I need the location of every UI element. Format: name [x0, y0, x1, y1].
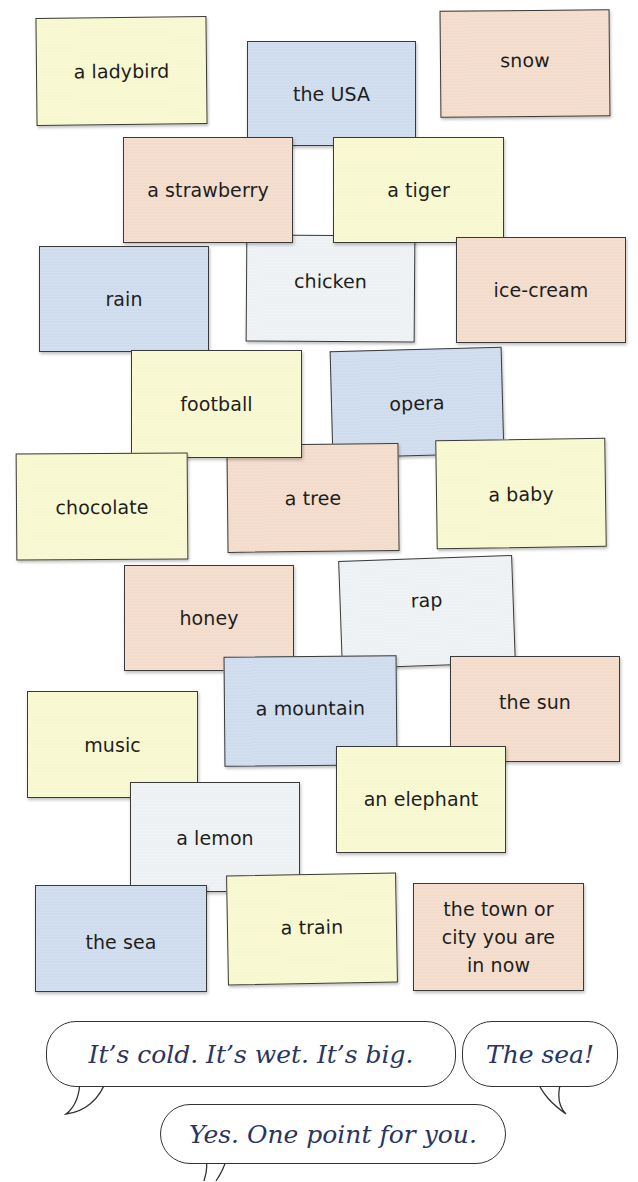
card-label: football	[174, 390, 258, 418]
card-rap: rap	[338, 555, 516, 669]
card-label: a strawberry	[141, 176, 275, 204]
speech-text-answer: The sea!	[486, 1040, 594, 1069]
speech-bubble-answer: The sea!	[462, 1021, 618, 1087]
card-label: snow	[494, 45, 556, 74]
card-ice-cream: ice-cream	[456, 237, 626, 343]
card-label: an elephant	[358, 785, 485, 813]
card-label: a tiger	[381, 176, 456, 204]
card-label: music	[78, 731, 147, 759]
card-rain: rain	[39, 246, 209, 352]
card-a-train: a train	[226, 873, 398, 986]
card-label: honey	[173, 604, 244, 632]
card-label: the sea	[79, 928, 162, 956]
card-label: the sun	[493, 688, 577, 716]
card-label: a tree	[279, 484, 348, 513]
speech-text-response: Yes. One point for you.	[189, 1120, 477, 1149]
speech-bubble-clue: It’s cold. It’s wet. It’s big.	[46, 1021, 456, 1087]
card-label: rap	[404, 585, 449, 615]
card-a-strawberry: a strawberry	[123, 137, 293, 243]
card-chicken: chicken	[246, 234, 416, 342]
card-label: the town or city you are in now	[430, 895, 567, 979]
card-the-sea: the sea	[35, 885, 207, 992]
card-the-town-or-city: the town or city you are in now	[413, 883, 584, 991]
card-label: ice-cream	[488, 276, 595, 304]
card-a-tiger: a tiger	[333, 137, 504, 243]
speech-text-clue: It’s cold. It’s wet. It’s big.	[89, 1040, 414, 1069]
card-label: a mountain	[250, 693, 372, 722]
card-snow: snow	[440, 9, 611, 117]
card-label: the USA	[287, 80, 376, 108]
card-a-ladybird: a ladybird	[35, 16, 207, 126]
card-a-tree: a tree	[226, 443, 399, 553]
card-honey: honey	[124, 565, 294, 671]
card-label: a ladybird	[67, 56, 175, 85]
speech-bubble-response: Yes. One point for you.	[160, 1104, 506, 1164]
card-label: opera	[383, 388, 451, 418]
card-label: a lemon	[170, 824, 260, 852]
card-label: a train	[274, 912, 349, 941]
card-label: chocolate	[49, 492, 154, 521]
card-an-elephant: an elephant	[336, 746, 506, 853]
card-football: football	[131, 350, 302, 458]
card-a-baby: a baby	[435, 438, 607, 549]
card-label: chicken	[288, 266, 373, 295]
card-chocolate: chocolate	[16, 452, 189, 560]
card-label: a baby	[482, 479, 560, 508]
card-label: rain	[99, 285, 148, 313]
card-the-usa: the USA	[247, 41, 416, 146]
